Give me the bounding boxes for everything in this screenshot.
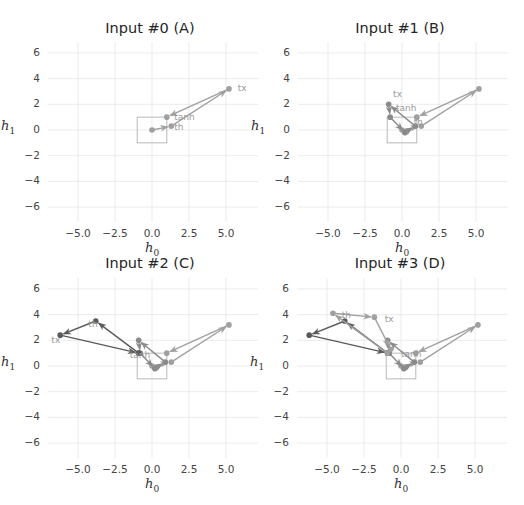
x-tick-label: −5.0 (314, 227, 342, 239)
y-tick-label: 4 (267, 308, 289, 320)
trajectory-point (401, 366, 407, 372)
trajectory-segment (421, 91, 476, 126)
x-tick-label: −2.5 (101, 227, 129, 239)
y-axis-label: h1 (251, 118, 265, 136)
y-tick-label: 2 (18, 333, 40, 345)
y-tick-label: 2 (18, 97, 40, 109)
trajectory-point (168, 123, 174, 129)
x-tick-label: −5.0 (64, 227, 92, 239)
y-tick-label: −4 (18, 410, 40, 422)
y-tick-label: 6 (18, 46, 40, 58)
trajectory-point (149, 127, 155, 133)
x-tick-label: −2.5 (351, 227, 379, 239)
y-tick-label: −2 (18, 385, 40, 397)
x-tick-label: 0.0 (388, 227, 416, 239)
x-tick-label: 5.0 (461, 463, 489, 475)
trajectory-segment (170, 325, 229, 352)
y-tick-label: −2 (267, 385, 289, 397)
trajectory-point (164, 350, 170, 356)
step-label: th (342, 310, 351, 320)
y-tick-label: 6 (267, 282, 289, 294)
y-tick-label: −4 (267, 410, 289, 422)
trajectory-point (226, 86, 232, 92)
trajectory-point (152, 366, 158, 372)
x-tick-label: −2.5 (101, 463, 129, 475)
step-label: tanh (130, 350, 150, 360)
x-axis-label: h0 (145, 476, 159, 494)
trajectory-point (417, 359, 423, 365)
y-tick-label: −4 (268, 174, 290, 186)
trajectory-point (168, 359, 174, 365)
trajectory-point (330, 311, 336, 317)
y-axis-label: h1 (1, 118, 15, 136)
trajectory-segment (420, 327, 475, 362)
y-axis-label: h1 (1, 354, 15, 372)
x-tick-label: 2.5 (425, 227, 453, 239)
trajectory-point (386, 102, 392, 108)
trajectory-segment (333, 313, 371, 317)
step-label: tx (393, 89, 403, 99)
trajectory-point (306, 332, 312, 338)
step-label: tx (385, 314, 395, 324)
step-label: th (88, 319, 97, 329)
x-axis-label: h0 (145, 240, 159, 258)
x-tick-label: −5.0 (313, 463, 341, 475)
y-tick-label: −6 (267, 436, 289, 448)
step-label: tanh (174, 112, 194, 122)
subplot-2: thtxtanh (48, 278, 258, 458)
trajectory-point (412, 359, 418, 365)
y-tick-label: −6 (18, 436, 40, 448)
trajectory-segment (419, 325, 478, 352)
x-tick-label: 2.5 (424, 463, 452, 475)
trajectory-point (372, 314, 378, 320)
y-tick-label: 0 (268, 123, 290, 135)
y-tick-label: 2 (268, 97, 290, 109)
y-tick-label: −4 (18, 174, 40, 186)
y-tick-label: 0 (18, 359, 40, 371)
y-tick-label: 4 (18, 308, 40, 320)
trajectory-point (476, 86, 482, 92)
step-label: tanh (401, 349, 421, 359)
trajectory-point (402, 130, 408, 136)
trajectory-point (136, 338, 142, 344)
step-label: tx (51, 335, 61, 345)
x-tick-label: 5.0 (212, 227, 240, 239)
subplot-1: txtanhth (298, 42, 508, 222)
y-tick-label: −2 (268, 149, 290, 161)
step-label: th (414, 117, 423, 127)
trajectory-segment (60, 335, 135, 352)
x-tick-label: 2.5 (175, 463, 203, 475)
trajectory-segment (420, 89, 479, 116)
x-tick-label: 2.5 (175, 227, 203, 239)
step-label: tx (238, 83, 248, 93)
y-tick-label: 2 (267, 333, 289, 345)
trajectory-point (475, 322, 481, 328)
x-tick-label: 0.0 (138, 463, 166, 475)
x-tick-label: 0.0 (138, 227, 166, 239)
trajectory-point (164, 114, 170, 120)
y-tick-label: 0 (267, 359, 289, 371)
y-tick-label: −2 (18, 149, 40, 161)
y-axis-label: h1 (250, 354, 264, 372)
y-tick-label: 0 (18, 123, 40, 135)
step-label: th (174, 122, 183, 132)
y-tick-label: −6 (268, 200, 290, 212)
y-tick-label: 6 (18, 282, 40, 294)
trajectory-segment (309, 335, 384, 352)
trajectory-point (387, 114, 393, 120)
subplot-0: thtxtanh (48, 42, 258, 222)
trajectory-segment (171, 327, 226, 362)
step-label: tanh (396, 103, 416, 113)
trajectory-point (163, 359, 169, 365)
y-tick-label: 4 (18, 72, 40, 84)
y-tick-label: 6 (268, 46, 290, 58)
x-tick-label: 0.0 (387, 463, 415, 475)
y-tick-label: −6 (18, 200, 40, 212)
x-axis-label: h0 (394, 476, 408, 494)
trajectory-segment (312, 321, 344, 334)
y-tick-label: 4 (268, 72, 290, 84)
x-tick-label: −5.0 (64, 463, 92, 475)
x-axis-label: h0 (395, 240, 409, 258)
plot-canvas: thtxtanhtxtanhththtxtanhthtxtanh (0, 0, 524, 505)
subplot-3: thtxtanh (297, 278, 507, 458)
